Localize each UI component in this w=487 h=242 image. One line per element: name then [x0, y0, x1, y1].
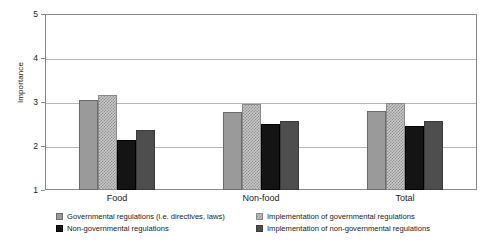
bar-series-layer: [45, 14, 477, 190]
legend-item[interactable]: Governmental regulations (i.e. directive…: [56, 211, 252, 222]
legend-label: Non-governmental regulations: [67, 224, 169, 233]
legend-label: Governmental regulations (i.e. directive…: [67, 212, 225, 221]
x-axis-label-total: Total: [333, 193, 477, 203]
bar: [424, 121, 443, 190]
bar-chart: Importance 12345 FoodNon-foodTotal Gover…: [0, 0, 487, 242]
chart-legend: Governmental regulations (i.e. directive…: [56, 211, 476, 234]
y-tick-mark-1: [41, 190, 45, 191]
bar: [136, 130, 155, 190]
bar: [367, 111, 386, 190]
legend-item[interactable]: Non-governmental regulations: [56, 223, 252, 234]
x-axis-label-non-food: Non-food: [189, 193, 333, 203]
y-tick-label-5: 5: [10, 10, 38, 19]
bar: [117, 140, 136, 190]
legend-swatch-icon: [256, 225, 263, 232]
y-axis-title: Importance: [16, 35, 25, 131]
x-axis-label-food: Food: [45, 193, 189, 203]
bar: [223, 112, 242, 190]
legend-item[interactable]: Implementation of non-governmental regul…: [256, 223, 476, 234]
legend-swatch-icon: [56, 213, 63, 220]
legend-label: Implementation of governmental regulatio…: [267, 212, 415, 221]
bar: [79, 100, 98, 190]
legend-swatch-icon: [256, 213, 263, 220]
y-tick-label-2: 2: [10, 142, 38, 151]
bar: [280, 121, 299, 190]
bar: [405, 126, 424, 190]
bar: [98, 95, 117, 190]
legend-label: Implementation of non-governmental regul…: [267, 224, 430, 233]
legend-swatch-icon: [56, 225, 63, 232]
y-tick-label-1: 1: [10, 186, 38, 195]
legend-item[interactable]: Implementation of governmental regulatio…: [256, 211, 476, 222]
bar: [242, 104, 261, 190]
bar: [386, 103, 405, 190]
bar: [261, 124, 280, 190]
